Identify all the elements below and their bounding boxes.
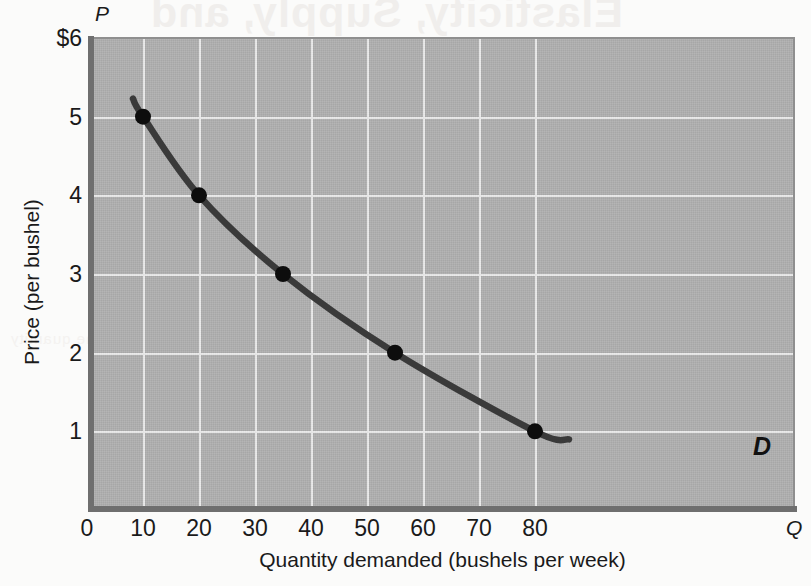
gridline-horizontal: [90, 431, 795, 433]
x-axis-title: Quantity demanded (bushels per week): [90, 548, 795, 572]
gridline-vertical: [367, 38, 369, 510]
x-tick-label: 10: [113, 517, 173, 540]
x-tick-label: 60: [393, 517, 453, 540]
gridline-vertical: [255, 38, 257, 510]
y-axis-line: [88, 36, 94, 512]
x-tick-label: 30: [225, 517, 285, 540]
gridline-vertical: [311, 38, 313, 510]
gridline-vertical: [479, 38, 481, 510]
gridline-horizontal: [90, 195, 795, 197]
x-tick-label: 20: [169, 517, 229, 540]
x-tick-label: 40: [281, 517, 341, 540]
x-tick-label: 50: [337, 517, 397, 540]
quantity-axis-symbol: Q: [786, 516, 802, 540]
plot-border-right: [793, 38, 795, 510]
gridline-horizontal: [90, 117, 795, 119]
y-tick-label: 1: [22, 420, 82, 443]
page-bleed-text-top: Elasticity, Supply, and: [150, 0, 623, 37]
price-axis-symbol: P: [95, 2, 109, 26]
y-axis-title: Price (per bushel): [20, 172, 44, 392]
demand-curve-figure: Elasticity, Supply, and demand curve sho…: [0, 0, 811, 586]
plot-border-top: [90, 37, 795, 39]
demand-curve-label: D: [753, 432, 771, 461]
y-tick-label: $6: [22, 27, 82, 50]
x-axis-line: [88, 506, 797, 512]
gridline-horizontal: [90, 353, 795, 355]
x-tick-label: 70: [449, 517, 509, 540]
y-tick-label: 5: [22, 106, 82, 129]
x-tick-label: 0: [57, 517, 117, 540]
x-tick-label: 80: [505, 517, 565, 540]
gridline-vertical: [199, 38, 201, 510]
gridline-vertical: [423, 38, 425, 510]
gridline-vertical: [535, 38, 537, 510]
plot-area: [90, 38, 795, 510]
gridline-vertical: [143, 38, 145, 510]
gridline-horizontal: [90, 274, 795, 276]
